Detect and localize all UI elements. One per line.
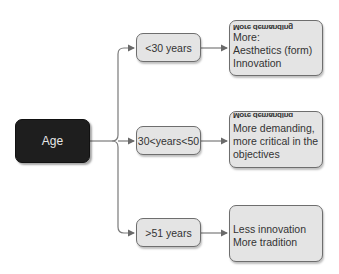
detail-node-over-51: Less innovation More tradition xyxy=(229,205,323,262)
detail-line: more critical in the xyxy=(233,135,319,148)
branch-node-over-51: >51 years xyxy=(136,218,201,247)
detail-line: Less innovation xyxy=(233,223,319,236)
detail-line: More demanding, xyxy=(233,122,319,135)
detail-line: Aesthetics (form) xyxy=(233,44,319,57)
garbled-text-artifact: More demanding xyxy=(233,23,319,31)
branch-node-under-30: <30 years xyxy=(136,33,201,62)
root-label: Age xyxy=(42,134,63,148)
garbled-text-artifact: More demanding xyxy=(233,113,319,119)
branch-label: <30 years xyxy=(145,42,191,54)
detail-line: More: xyxy=(233,31,319,44)
branch-label: 30<years<50 xyxy=(138,135,199,147)
branch-label: >51 years xyxy=(145,227,191,239)
detail-node-30-to-50: More demanding More demanding, more crit… xyxy=(229,111,323,168)
detail-node-under-30: More demanding More: Aesthetics (form) I… xyxy=(229,20,323,76)
branch-node-30-to-50: 30<years<50 xyxy=(136,126,201,155)
detail-line: Innovation xyxy=(233,57,319,70)
root-node-age: Age xyxy=(15,119,90,163)
detail-line: More tradition xyxy=(233,236,319,249)
detail-line: objectives xyxy=(233,148,319,161)
